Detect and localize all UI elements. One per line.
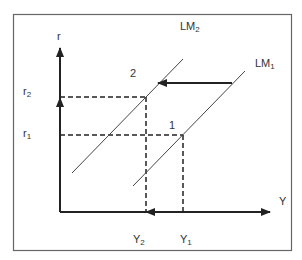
point-2-label: 2 <box>130 68 136 79</box>
lm1-curve <box>133 71 245 186</box>
lm1-label: LM1 <box>255 58 275 71</box>
point-1-label: 1 <box>169 120 175 131</box>
diagram-frame <box>14 15 292 251</box>
r2-tick-label: r2 <box>23 86 31 99</box>
r1-tick-label: r1 <box>23 128 31 141</box>
r-axis-label: r <box>57 31 61 42</box>
y2-tick-label: Y2 <box>133 234 145 247</box>
lm2-label: LM2 <box>180 21 200 34</box>
y1-tick-label: Y1 <box>180 234 192 247</box>
diagram-canvas <box>0 0 302 260</box>
lm2-curve <box>72 59 183 173</box>
y-axis-label: Y <box>279 196 286 207</box>
